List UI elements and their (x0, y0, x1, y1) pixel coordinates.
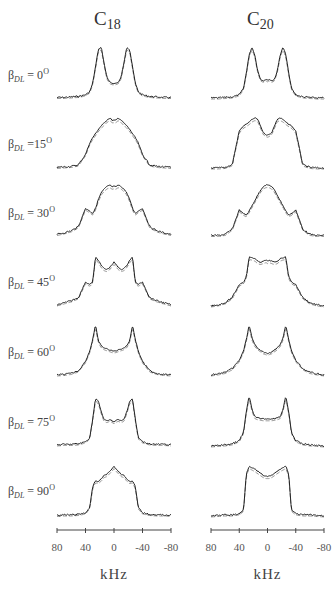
subscript-dl: DL (14, 422, 24, 431)
subscript-dl: DL (14, 491, 24, 500)
experimental-spectrum-line (211, 185, 324, 236)
experimental-spectrum-line (57, 327, 171, 375)
nmr-spectra-figure: C18 C20 βDL = 0OβDL =15OβDL = 30OβDL = 4… (0, 0, 334, 590)
simulated-spectrum-line (211, 188, 324, 237)
experimental-spectrum-line (57, 185, 171, 235)
experimental-spectrum-line (211, 118, 324, 169)
experimental-spectrum-line (211, 398, 324, 447)
experimental-spectrum-line (57, 118, 171, 168)
subscript-dl: DL (14, 75, 24, 84)
x-axis-tick-label: 40 (234, 541, 245, 553)
row-label-beta-dl: βDL =15O (8, 136, 52, 153)
row-label-beta-dl: βDL = 45O (8, 274, 55, 291)
row-label-beta-dl: βDL = 90O (8, 483, 55, 500)
angle-value: = 30 (24, 206, 49, 220)
subscript-dl: DL (14, 144, 24, 153)
x-axis-tick-label: 0 (265, 541, 271, 553)
x-axis-tick-label: -40 (288, 541, 303, 553)
column-title-c18: C18 (94, 8, 121, 33)
degree-symbol: O (43, 67, 49, 76)
x-axis-tick-label: 0 (111, 541, 117, 553)
experimental-spectrum-line (211, 327, 324, 376)
x-axis-title-right: kHz (254, 566, 282, 583)
x-axis-title-left: kHz (100, 566, 128, 583)
simulated-spectrum-line (57, 50, 171, 99)
x-axis-tick-label: 80 (52, 541, 63, 553)
angle-value: = 60 (24, 345, 49, 359)
degree-symbol: O (49, 483, 55, 492)
angle-value: = 45 (24, 275, 49, 289)
degree-symbol: O (49, 414, 55, 423)
angle-value: = 75 (24, 415, 49, 429)
angle-value: = 0 (24, 68, 43, 82)
degree-symbol: O (46, 136, 52, 145)
subscript-dl: DL (14, 213, 24, 222)
simulated-spectrum-line (211, 51, 324, 99)
experimental-spectrum-line (57, 466, 171, 516)
x-axis-tick-label: 80 (206, 541, 217, 553)
experimental-spectrum-line (57, 47, 171, 98)
x-axis-tick-label: -80 (164, 541, 179, 553)
simulated-spectrum-line (57, 402, 171, 447)
simulated-spectrum-line (57, 121, 171, 169)
simulated-spectrum-line (211, 121, 324, 169)
column-title-subscript: 20 (260, 17, 274, 32)
simulated-spectrum-line (57, 469, 171, 517)
column-title-main: C (247, 8, 260, 29)
simulated-spectrum-line (211, 401, 324, 447)
column-title-main: C (94, 8, 107, 29)
experimental-spectrum-line (211, 466, 324, 516)
spectra-plot-area (0, 0, 334, 590)
degree-symbol: O (49, 344, 55, 353)
row-label-beta-dl: βDL = 60O (8, 344, 55, 361)
row-label-beta-dl: βDL = 30O (8, 205, 55, 222)
x-axis-tick-label: -40 (135, 541, 150, 553)
angle-value: = 90 (24, 484, 49, 498)
simulated-spectrum-line (57, 330, 171, 376)
subscript-dl: DL (14, 352, 24, 361)
row-label-beta-dl: βDL = 75O (8, 414, 55, 431)
row-label-beta-dl: βDL = 0O (8, 67, 49, 84)
degree-symbol: O (49, 274, 55, 283)
experimental-spectrum-line (211, 48, 324, 99)
subscript-dl: DL (14, 282, 24, 291)
x-axis-tick-label: -80 (317, 541, 332, 553)
simulated-spectrum-line (211, 330, 324, 376)
column-title-c20: C20 (247, 8, 274, 33)
angle-value: =15 (24, 137, 46, 151)
experimental-spectrum-line (57, 399, 171, 446)
x-axis-tick-label: 40 (80, 541, 91, 553)
degree-symbol: O (49, 205, 55, 214)
column-title-subscript: 18 (107, 17, 121, 32)
